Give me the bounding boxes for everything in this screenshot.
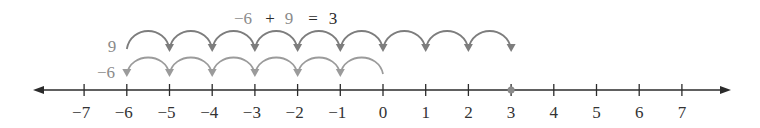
tick-label: −1 (328, 104, 346, 122)
equation-term1: −6 (234, 10, 252, 28)
bottom-row-label: −6 (97, 64, 115, 82)
top-row-hop (170, 31, 213, 49)
result-point (508, 87, 515, 94)
bottom-row-hop (340, 58, 383, 75)
tick-label: 1 (421, 104, 430, 122)
top-row-hop (468, 31, 511, 49)
tick-label: 6 (635, 104, 644, 122)
equation-plus: + (265, 10, 275, 28)
bottom-row-hop (127, 58, 170, 75)
tick-label: −4 (200, 104, 218, 122)
tick-label: 3 (507, 104, 516, 122)
tick-label: 4 (550, 104, 559, 122)
bottom-row-hop (298, 58, 341, 75)
tick-label: 2 (464, 104, 473, 122)
top-row-hop (340, 31, 383, 49)
bottom-row-arrowhead-icon (122, 69, 131, 77)
tick-label: −3 (243, 104, 261, 122)
top-row-hop (212, 31, 255, 49)
bottom-row-hop (255, 58, 298, 75)
right-arrow-icon (720, 86, 731, 94)
equation-result: 3 (329, 10, 338, 28)
tick-label: −2 (286, 104, 304, 122)
top-row-hop (426, 31, 469, 49)
top-row-arrowhead-icon (507, 44, 516, 52)
tick-label: 7 (678, 104, 687, 122)
tick-label: 5 (592, 104, 601, 122)
top-row-hop (383, 31, 426, 49)
bottom-row-hop (212, 58, 255, 75)
tick-label: 0 (379, 104, 388, 122)
tick-label: −6 (115, 104, 133, 122)
top-row-hop (255, 31, 298, 49)
equation-term2: 9 (285, 10, 294, 28)
equation-equals: = (308, 10, 318, 28)
top-row-hop (298, 31, 341, 49)
top-row-label: 9 (108, 38, 117, 56)
top-row-hop (127, 31, 170, 49)
left-arrow-icon (33, 86, 44, 94)
tick-label: −7 (72, 104, 90, 122)
bottom-row-hop (170, 58, 213, 75)
tick-label: −5 (157, 104, 175, 122)
